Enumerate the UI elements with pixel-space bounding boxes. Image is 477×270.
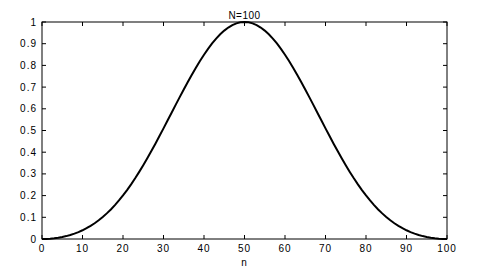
y-tick-label: 0.6: [20, 103, 37, 114]
y-tick-label: 0.1: [20, 212, 37, 223]
x-tick-label: 90: [400, 243, 413, 254]
x-tick-label: 20: [116, 243, 129, 254]
y-tick-label: 1: [30, 17, 37, 28]
y-tick-label: 0.2: [20, 190, 37, 201]
x-tick-label: 100: [437, 243, 457, 254]
x-axis-label: n: [241, 257, 248, 268]
y-tick-label: 0.7: [20, 82, 37, 93]
line-chart: 0102030405060708090100 00.10.20.30.40.50…: [0, 0, 477, 270]
chart-title: N=100: [228, 10, 260, 21]
y-tick-label: 0: [30, 234, 37, 245]
y-tick-label: 0.3: [20, 168, 37, 179]
plot-frame: [42, 22, 447, 239]
y-tick-labels: 00.10.20.30.40.50.60.70.80.91: [20, 17, 37, 245]
y-tick-label: 0.4: [20, 147, 37, 158]
x-tick-label: 10: [76, 243, 89, 254]
axes-box: [42, 22, 447, 239]
x-tick-label: 50: [238, 243, 251, 254]
y-tick-label: 0.8: [20, 60, 37, 71]
y-tick-label: 0.9: [20, 38, 37, 49]
x-tick-label: 30: [157, 243, 170, 254]
tick-marks: [42, 22, 447, 239]
y-tick-label: 0.5: [20, 125, 37, 136]
data-curve: [42, 22, 447, 239]
x-tick-label: 60: [278, 243, 291, 254]
x-tick-labels: 0102030405060708090100: [39, 243, 457, 254]
x-tick-label: 70: [319, 243, 332, 254]
x-tick-label: 80: [359, 243, 372, 254]
x-tick-label: 40: [197, 243, 210, 254]
x-tick-label: 0: [39, 243, 46, 254]
